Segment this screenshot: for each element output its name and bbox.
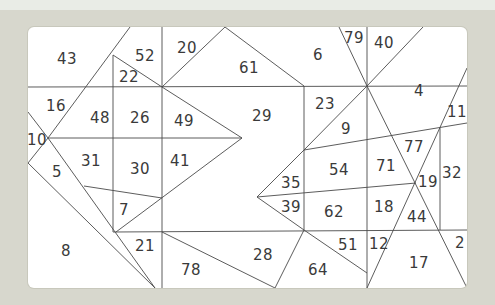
region-number[interactable]: 4 [414, 82, 424, 100]
region-number[interactable]: 5 [52, 163, 62, 181]
region-number[interactable]: 64 [308, 261, 328, 279]
region-number[interactable]: 35 [281, 174, 301, 192]
region-number[interactable]: 39 [281, 198, 301, 216]
region-number[interactable]: 30 [130, 160, 150, 178]
region-number[interactable]: 2 [455, 234, 465, 252]
region-number[interactable]: 71 [376, 157, 396, 175]
region-number[interactable]: 41 [170, 152, 190, 170]
region-number[interactable]: 23 [315, 95, 335, 113]
region-number[interactable]: 49 [174, 112, 194, 130]
region-number[interactable]: 31 [81, 152, 101, 170]
region-number[interactable]: 9 [341, 120, 351, 138]
region-number[interactable]: 54 [329, 161, 349, 179]
region-number[interactable]: 40 [374, 34, 394, 52]
region-number[interactable]: 16 [46, 97, 66, 115]
region-number[interactable]: 10 [27, 131, 47, 149]
region-number[interactable]: 51 [338, 236, 358, 254]
region-number[interactable]: 52 [135, 47, 155, 65]
region-number[interactable]: 32 [442, 164, 462, 182]
region-number[interactable]: 19 [418, 173, 438, 191]
region-number[interactable]: 11 [447, 103, 467, 121]
region-number[interactable]: 18 [374, 198, 394, 216]
region-number[interactable]: 8 [61, 242, 71, 260]
region-number[interactable]: 7 [119, 201, 129, 219]
region-number[interactable]: 43 [57, 50, 77, 68]
region-number[interactable]: 61 [239, 59, 259, 77]
region-number[interactable]: 29 [252, 107, 272, 125]
region-number[interactable]: 62 [324, 203, 344, 221]
region-number[interactable]: 44 [407, 208, 427, 226]
region-number[interactable]: 20 [177, 39, 197, 57]
region-number[interactable]: 28 [253, 246, 273, 264]
region-number[interactable]: 6 [313, 46, 323, 64]
region-number[interactable]: 17 [409, 254, 429, 272]
region-number[interactable]: 77 [404, 138, 424, 156]
region-number[interactable]: 22 [119, 68, 139, 86]
region-number[interactable]: 48 [90, 109, 110, 127]
region-number[interactable]: 26 [130, 109, 150, 127]
region-number[interactable]: 79 [344, 29, 364, 47]
region-number[interactable]: 78 [181, 261, 201, 279]
region-number[interactable]: 12 [369, 235, 389, 253]
region-number[interactable]: 21 [135, 237, 155, 255]
